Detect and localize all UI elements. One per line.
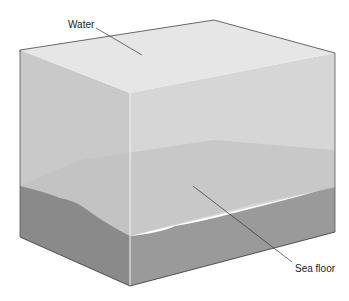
water-block-diagram: Water Sea floor (0, 0, 349, 301)
sea-floor-label: Sea floor (295, 263, 336, 274)
water-label: Water (68, 19, 95, 30)
